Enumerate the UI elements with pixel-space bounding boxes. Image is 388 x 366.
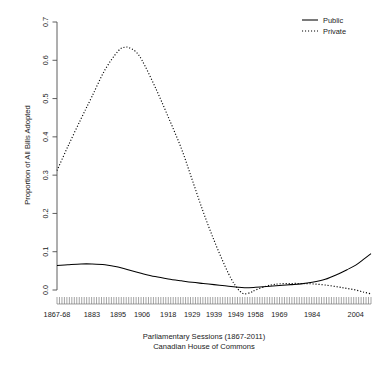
y-axis-title: Proportion of All Bills Adopted [23,105,32,205]
x-tick-label: 1949 [228,310,244,319]
series-line-public [57,254,371,288]
y-tick-label: 0.7 [41,17,50,27]
y-tick-label: 0.0 [41,285,50,295]
x-axis-title-line1: Parliamentary Sessions (1867-2011) [143,332,266,341]
y-tick-label: 0.2 [41,208,50,218]
y-tick-label: 0.5 [41,93,50,103]
x-axis-tick-labels: 1867-68188318951906191819291939194919581… [44,310,364,319]
x-tick-label: 1906 [134,310,150,319]
line-chart-svg: 0.00.10.20.30.40.50.60.7 Proportion of A… [0,0,388,366]
x-tick-label: 1929 [184,310,200,319]
x-tick-label: 1939 [206,310,222,319]
legend-label-private: Private [323,27,346,36]
x-axis-rug [57,297,371,304]
legend-label-public: Public [323,16,343,25]
y-tick-label: 0.3 [41,170,50,180]
x-axis-title-line2: Canadian House of Commons [153,342,255,351]
x-tick-label: 2004 [348,310,364,319]
x-tick-label: 1867-68 [44,310,71,319]
x-tick-label: 1895 [110,310,126,319]
x-tick-label: 1883 [84,310,100,319]
series-line-private [57,47,371,294]
chart-container: 0.00.10.20.30.40.50.60.7 Proportion of A… [0,0,388,366]
y-axis [53,22,58,290]
x-tick-label: 1958 [247,310,263,319]
y-tick-label: 0.1 [41,247,50,257]
series-group [57,47,371,294]
x-tick-label: 1918 [160,310,176,319]
y-tick-label: 0.4 [41,132,50,142]
y-tick-label: 0.6 [41,55,50,65]
x-tick-label: 1969 [271,310,287,319]
x-tick-label: 1984 [304,310,320,319]
y-axis-tick-labels: 0.00.10.20.30.40.50.60.7 [41,17,50,295]
legend: PublicPrivate [302,16,346,36]
